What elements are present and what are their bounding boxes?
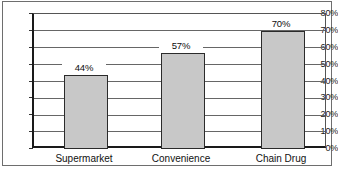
- x-tick-label-supermarket: Supermarket: [44, 153, 124, 164]
- bar-convenience[interactable]: [161, 53, 205, 149]
- bar-supermarket[interactable]: [64, 75, 108, 149]
- bar-value-label: 44%: [62, 63, 106, 73]
- y-tick-mark: [29, 148, 33, 149]
- bar-value-label: 70%: [259, 19, 303, 29]
- bar-chain-drug[interactable]: [261, 31, 305, 149]
- bar-value-label: 57%: [159, 41, 203, 51]
- x-tick-label-convenience: Convenience: [141, 153, 221, 164]
- plot-area: [32, 13, 326, 148]
- x-tick-label-chain-drug: Chain Drug: [241, 153, 321, 164]
- bar-chart: 80% 70% 60% 50% 40% 30% 20% 10% 0% 44% 5…: [0, 0, 338, 172]
